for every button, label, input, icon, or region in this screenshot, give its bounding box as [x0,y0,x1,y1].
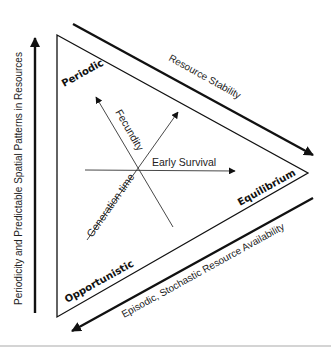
corner-label-periodic: Periodic [60,57,106,89]
vertical-gradient-label: Periodicity and Predictable Spatial Patt… [13,52,24,305]
corner-label-opportunistic: Opportunistic [63,258,136,305]
fecundity-label: Fecundity [113,107,147,153]
episodic-availability-label: Episodic, Stochastic Resource Availabili… [120,221,287,320]
resource-stability-label: Resource Stability [167,52,243,101]
bottom-divider [0,345,331,347]
generation-time-label: Generation time [84,171,137,239]
life-history-triangle-diagram: Periodic Equilibrium Opportunistic Fecun… [0,0,331,348]
early-survival-axis [85,170,235,171]
corner-label-equilibrium: Equilibrium [236,167,298,208]
early-survival-label: Early Survival [152,156,216,168]
resource-stability-arrow [73,24,313,155]
